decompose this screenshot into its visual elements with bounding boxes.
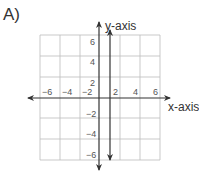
svg-text:2: 2	[90, 78, 95, 88]
svg-text:−2: −2	[86, 109, 96, 119]
x-tick-labels: −6 −4 −2 2 4 6	[42, 87, 158, 97]
svg-text:x-axis: x-axis	[168, 100, 199, 114]
y-tick: 6	[90, 37, 95, 47]
svg-text:6: 6	[153, 87, 158, 97]
svg-text:4: 4	[90, 57, 95, 67]
y-axis-label: y-axis	[105, 19, 136, 33]
x-tick: −4	[62, 87, 72, 97]
svg-text:6: 6	[90, 37, 95, 47]
x-tick: 2	[113, 87, 118, 97]
y-tick: 4	[90, 57, 95, 67]
svg-text:y-axis: y-axis	[105, 19, 136, 33]
x-tick: −2	[82, 87, 92, 97]
svg-text:4: 4	[133, 87, 138, 97]
svg-text:−4: −4	[86, 129, 96, 139]
coordinate-plane: −6 −4 −2 2 4 6 6 4 2 −2 −4 −6 y-axis x-a…	[0, 0, 199, 172]
y-tick: −4	[86, 129, 96, 139]
x-axis-label: x-axis	[168, 100, 199, 114]
svg-text:−2: −2	[82, 87, 92, 97]
svg-text:−4: −4	[62, 87, 72, 97]
svg-text:−6: −6	[86, 150, 96, 160]
y-tick: −6	[86, 150, 96, 160]
y-tick: −2	[86, 109, 96, 119]
x-tick: 4	[133, 87, 138, 97]
x-tick: 6	[153, 87, 158, 97]
svg-text:2: 2	[113, 87, 118, 97]
x-tick: −6	[42, 87, 52, 97]
svg-text:−6: −6	[42, 87, 52, 97]
y-tick: 2	[90, 78, 95, 88]
